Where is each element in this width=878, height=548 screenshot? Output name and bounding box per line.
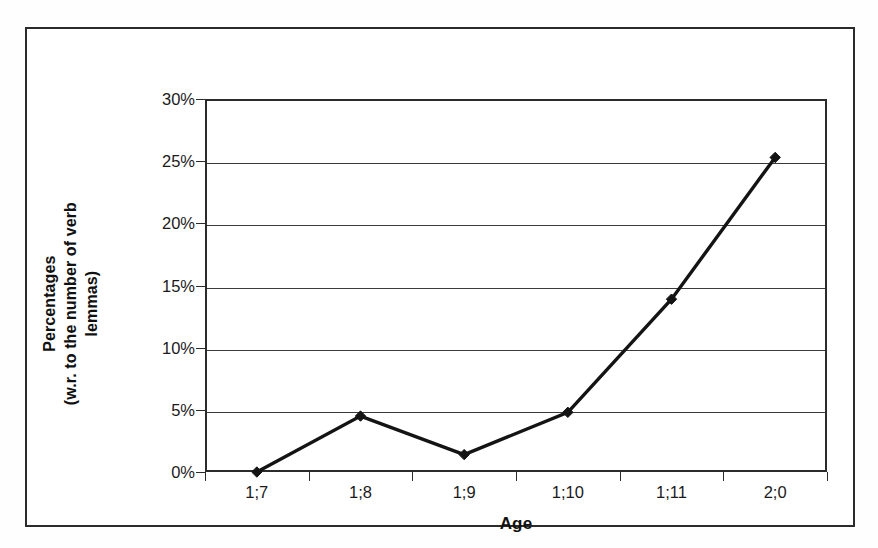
x-tick-label: 1;8 [309,484,413,501]
x-tickmark [412,472,413,481]
x-tickmark [827,472,828,481]
y-axis-title: Percentages (w.r. to the number of verb … [39,174,102,434]
x-axis-tick-labels: 1;7 1;8 1;9 1;10 1;11 2;0 [205,484,827,508]
y-axis-title-line1: Percentages [41,256,58,352]
y-tick-label: 5% [135,402,195,419]
series-line [257,157,775,472]
y-tickmark [196,410,205,411]
y-tickmark [196,161,205,162]
y-tick-label: 20% [135,215,195,232]
y-tick-label: 15% [135,278,195,295]
y-axis-title-line2: (w.r. to the number of verb lemmas) [60,174,102,434]
y-tickmark [196,99,205,100]
data-point-marker [459,449,469,459]
y-tickmark [196,472,205,473]
y-tick-label: 10% [135,340,195,357]
series-markers [252,152,781,477]
x-axis-tickmarks [205,472,827,482]
y-tick-label: 0% [135,464,195,481]
x-tickmark [516,472,517,481]
cropped-caption-strip: percentages of verbal morphology [0,0,878,12]
y-axis-tick-labels: 30% 25% 20% 15% 10% 5% 0% [127,99,195,472]
x-tickmark [309,472,310,481]
y-tickmark [196,223,205,224]
x-tick-label: 2;0 [723,484,827,501]
y-axis-tickmarks [195,99,205,472]
x-tick-label: 1;10 [516,484,620,501]
x-axis-title: Age [205,514,827,534]
data-series-layer [205,99,827,472]
x-tickmark [723,472,724,481]
x-tickmark [620,472,621,481]
cropped-caption-text: percentages of verbal morphology [228,0,503,1]
y-tickmark [196,286,205,287]
x-tick-label: 1;7 [205,484,309,501]
x-tick-label: 1;9 [412,484,516,501]
x-tick-label: 1;11 [620,484,724,501]
chart-frame: 30% 25% 20% 15% 10% 5% 0% [25,27,855,527]
x-tickmark [205,472,206,481]
y-tick-label: 30% [135,91,195,108]
figure-root: percentages of verbal morphology 30% 25%… [0,0,878,548]
y-tick-label: 25% [135,153,195,170]
y-tickmark [196,348,205,349]
